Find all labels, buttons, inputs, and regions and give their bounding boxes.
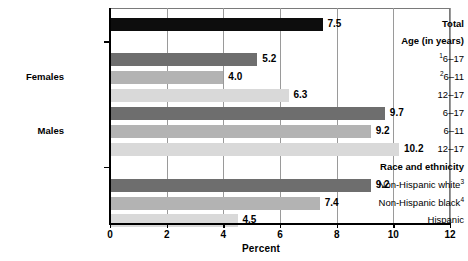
bar-chart: 024681012 7.55.24.06.39.79.210.29.27.44.…: [0, 0, 468, 261]
bar-value-total: 7.5: [328, 18, 342, 29]
row-label-hispanic: Hispanic: [360, 214, 468, 225]
x-axis-title: Percent: [0, 243, 468, 254]
x-tick-label-12: 12: [435, 229, 465, 240]
bar-value-females-12-17: 6.3: [294, 89, 308, 100]
x-tick-label-4: 4: [208, 229, 238, 240]
bar-total[interactable]: [110, 18, 323, 31]
row-label-total: Total: [360, 18, 468, 29]
row-label-females-6-17: 16–17: [360, 53, 468, 64]
row-label-females-6-11: 26–11: [360, 71, 468, 82]
row-label-females-12-17: 12–17: [360, 89, 468, 100]
section-tick-race-header: [104, 167, 109, 168]
section-tick-age-header: [104, 41, 109, 42]
x-tick-label-2: 2: [152, 229, 182, 240]
y-axis-line: [109, 8, 111, 225]
footnote-marker-3: 3: [460, 177, 464, 184]
x-tick-4: [223, 223, 224, 228]
x-tick-6: [280, 223, 281, 228]
bar-males-6-11[interactable]: [110, 125, 371, 138]
x-tick-label-0: 0: [95, 229, 125, 240]
bar-value-nh-black: 7.4: [325, 197, 339, 208]
bar-females-6-17[interactable]: [110, 53, 257, 66]
group-label-females: Females: [0, 71, 64, 82]
bar-value-females-6-11: 4.0: [228, 71, 242, 82]
bar-value-hispanic: 4.5: [243, 214, 257, 225]
x-tick-2: [167, 223, 168, 228]
footnote-marker-1: 1: [439, 52, 443, 59]
bar-females-6-11[interactable]: [110, 71, 223, 84]
x-axis-title-text: Percent: [242, 243, 280, 254]
footnote-marker-2: 2: [440, 70, 444, 77]
x-tick-8: [337, 223, 338, 228]
row-label-nh-white: Non-Hispanic white3: [360, 179, 468, 190]
bar-males-12-17[interactable]: [110, 143, 399, 156]
x-tick-label-8: 8: [322, 229, 352, 240]
row-label-nh-black: Non-Hispanic black4: [360, 197, 468, 208]
bar-nh-black[interactable]: [110, 197, 320, 210]
row-label-males-12-17: 12–17: [360, 143, 468, 154]
row-label-race-header: Race and ethnicity: [360, 161, 468, 172]
footnote-marker-4: 4: [460, 195, 464, 202]
bar-value-females-6-17: 5.2: [262, 53, 276, 64]
bar-males-6-17[interactable]: [110, 107, 385, 120]
row-label-males-6-11: 6–11: [360, 125, 468, 136]
x-tick-0: [110, 223, 111, 228]
row-label-males-6-17: 6–17: [360, 107, 468, 118]
row-label-age-header: Age (in years): [360, 35, 468, 46]
x-tick-label-6: 6: [265, 229, 295, 240]
x-tick-label-10: 10: [378, 229, 408, 240]
bar-nh-white[interactable]: [110, 179, 371, 192]
group-label-males: Males: [0, 125, 64, 136]
bar-hispanic[interactable]: [110, 214, 238, 227]
bar-females-12-17[interactable]: [110, 89, 289, 102]
